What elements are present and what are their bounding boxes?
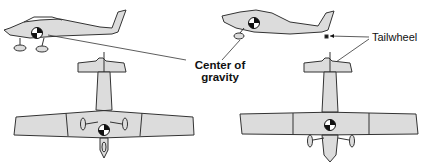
cg-label: Center of gravity [185,59,255,83]
diagram-art [0,0,427,168]
tailwheel-top-view [240,52,418,162]
cg-label-line2: gravity [185,71,255,83]
tricycle-top-view [14,52,194,158]
tailwheel-side-view [222,10,334,39]
tailwheel-label: Tailwheel [372,31,417,43]
cg-label-line1: Center of [185,59,255,71]
landing-gear-cg-diagram: Center of gravity Tailwheel [0,0,427,168]
